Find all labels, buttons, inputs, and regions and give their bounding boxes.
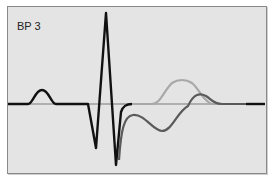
primary-waveform-trace xyxy=(8,13,132,165)
waveform-chart xyxy=(0,0,271,181)
light-t-wave-trace xyxy=(120,80,246,104)
